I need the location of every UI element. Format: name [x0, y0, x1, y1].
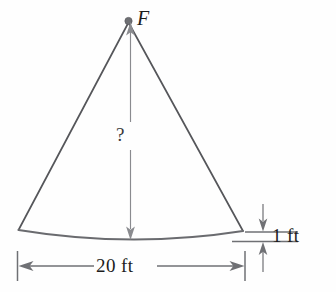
apex-dot-icon	[125, 17, 132, 24]
figure-canvas	[0, 0, 336, 292]
geometry-figure: F ? 20 ft 1 ft	[0, 0, 336, 292]
sagitta-label: 1 ft	[272, 226, 299, 245]
unknown-height-label: ?	[116, 125, 124, 144]
right-slant-side	[129, 23, 244, 232]
apex-label-F: F	[137, 8, 149, 28]
height-dimension-line	[126, 22, 135, 240]
left-slant-side	[19, 23, 129, 231]
base-width-label: 20 ft	[96, 256, 133, 275]
